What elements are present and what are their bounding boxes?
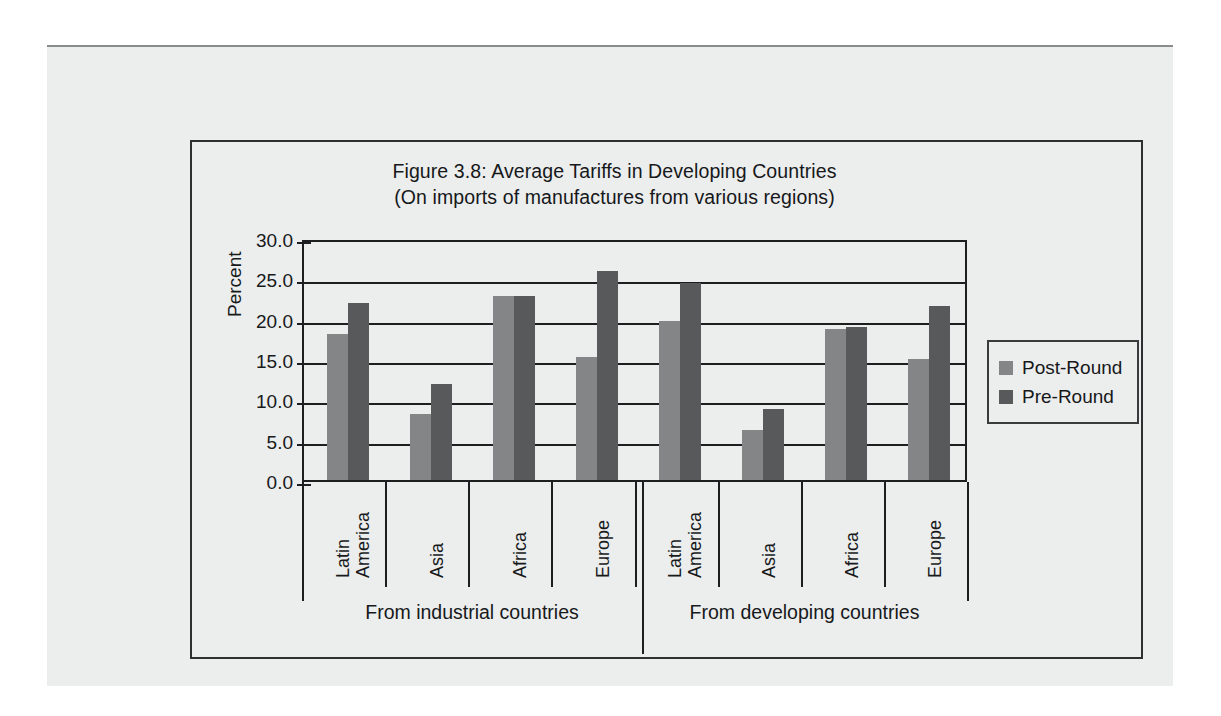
bar-post-round	[908, 359, 929, 482]
category-separator	[468, 482, 470, 587]
bar-post-round	[410, 414, 431, 482]
category-label: LatinAmerica	[333, 512, 373, 578]
category-label-line1: Latin	[665, 512, 685, 578]
y-axis-title: Percent	[224, 252, 246, 317]
bar-pre-round	[763, 409, 784, 482]
legend-label-post-round: Post-Round	[1022, 357, 1122, 379]
bar-pre-round	[514, 296, 535, 482]
category-label: LatinAmerica	[665, 512, 705, 578]
bar-post-round	[576, 357, 597, 482]
y-axis-tick	[297, 323, 311, 325]
category-label-line1: Europe	[925, 520, 945, 578]
chart-title-line2: (On imports of manufactures from various…	[192, 185, 1037, 211]
gridline	[304, 282, 965, 284]
legend-item-pre-round: Pre-Round	[999, 382, 1122, 411]
group-divider	[642, 482, 644, 654]
legend-swatch-post-round	[999, 361, 1013, 375]
y-axis-tick	[297, 282, 311, 284]
bar-post-round	[742, 430, 763, 482]
category-axis: LatinAmericaAsiaAfricaEuropeLatinAmerica…	[302, 482, 967, 654]
bar-pre-round	[431, 384, 452, 482]
bar-pre-round	[348, 303, 369, 482]
legend-item-post-round: Post-Round	[999, 353, 1122, 382]
y-axis-tick	[297, 403, 311, 405]
category-label-line2: America	[685, 512, 705, 578]
y-axis-tick-label: 0.0	[267, 472, 293, 494]
page-sheet: Figure 3.8: Average Tariffs in Developin…	[47, 47, 1173, 686]
category-separator	[635, 482, 637, 587]
y-axis-tick-label: 25.0	[256, 271, 293, 293]
bar-post-round	[327, 334, 348, 482]
chart-title: Figure 3.8: Average Tariffs in Developin…	[192, 159, 1037, 211]
y-axis-tick-label: 30.0	[256, 230, 293, 252]
legend-label-pre-round: Pre-Round	[1022, 386, 1114, 408]
category-label-line1: Africa	[842, 532, 862, 578]
bar-pre-round	[597, 271, 618, 482]
bar-post-round	[493, 296, 514, 482]
category-separator	[302, 482, 304, 601]
category-label: Asia	[427, 543, 447, 578]
legend-swatch-pre-round	[999, 390, 1013, 404]
category-separator	[385, 482, 387, 587]
bar-pre-round	[846, 327, 867, 482]
bar-post-round	[659, 321, 680, 482]
category-separator	[801, 482, 803, 587]
plot-area: 0.05.010.015.020.025.030.0	[302, 240, 967, 482]
category-separator	[884, 482, 886, 587]
y-axis-tick-label: 10.0	[256, 392, 293, 414]
category-label: Europe	[593, 520, 613, 578]
bar-pre-round	[929, 306, 950, 482]
category-label-line1: Latin	[333, 512, 353, 578]
bar-post-round	[825, 329, 846, 482]
group-label-industrial: From industrial countries	[302, 601, 642, 624]
y-axis-tick-label: 15.0	[256, 351, 293, 373]
category-separator	[551, 482, 553, 587]
category-label: Africa	[842, 532, 862, 578]
bar-pre-round	[680, 283, 701, 482]
legend: Post-Round Pre-Round	[987, 340, 1139, 424]
category-separator	[718, 482, 720, 587]
y-axis-tick	[297, 363, 311, 365]
category-separator	[967, 482, 969, 601]
y-axis-tick-label: 5.0	[267, 432, 293, 454]
chart-title-line1: Figure 3.8: Average Tariffs in Developin…	[192, 159, 1037, 185]
figure-frame: Figure 3.8: Average Tariffs in Developin…	[190, 140, 1143, 659]
category-label: Africa	[510, 532, 530, 578]
category-label-line2: America	[353, 512, 373, 578]
group-label-developing: From developing countries	[642, 601, 967, 624]
category-label: Europe	[925, 520, 945, 578]
category-label-line1: Asia	[427, 543, 447, 578]
y-axis-tick	[297, 242, 311, 244]
category-label-line1: Europe	[593, 520, 613, 578]
y-axis-tick-label: 20.0	[256, 311, 293, 333]
category-label-line1: Asia	[759, 543, 779, 578]
category-label: Asia	[759, 543, 779, 578]
gridline	[304, 323, 965, 325]
category-label-line1: Africa	[510, 532, 530, 578]
y-axis-tick	[297, 444, 311, 446]
